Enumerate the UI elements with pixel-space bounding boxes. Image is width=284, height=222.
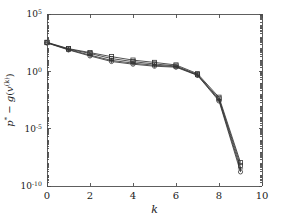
x-tick-label-8: 8 (216, 190, 222, 201)
x-tick-label-2: 2 (87, 190, 93, 201)
y-tick-label-10e-5: 10-5 (25, 122, 43, 134)
y-tick-exponent: -10 (32, 180, 42, 187)
x-tick-label-10: 10 (256, 190, 269, 201)
y-title-close: ) (4, 73, 15, 77)
y-title-minus: − (4, 102, 15, 117)
y-tick-base: 10 (27, 67, 39, 77)
x-axis-title: k (151, 203, 158, 216)
y-tick-exponent: -5 (36, 122, 42, 129)
x-tick-label-0: 0 (44, 190, 50, 201)
y-tick-label-10e-10: 10-10 (21, 180, 42, 192)
y-axis-title-text: p* − g(v(k)) (3, 73, 15, 126)
y-tick-exponent: 5 (38, 8, 42, 15)
figure-container: 0246810 10510010-510-10 k p* − g(v(k)) (0, 0, 284, 222)
y-tick-exponent: 0 (38, 65, 42, 72)
x-tick-label-4: 4 (130, 190, 136, 201)
y-tick-label-10e5: 105 (27, 8, 42, 20)
y-tick-base: 10 (21, 181, 33, 191)
x-tick-label-layer: 0246810 (44, 190, 269, 201)
y-tick-base: 10 (25, 124, 37, 134)
y-tick-label-layer: 10510010-510-10 (21, 8, 42, 192)
x-tick-label-6: 6 (173, 190, 179, 201)
y-axis-title: p* − g(v(k)) (3, 73, 15, 126)
y-tick-base: 10 (27, 9, 39, 19)
convergence-chart: 0246810 10510010-510-10 k p* − g(v(k)) (0, 0, 284, 222)
y-tick-label-10e0: 100 (27, 65, 42, 77)
plot-background (47, 14, 262, 186)
